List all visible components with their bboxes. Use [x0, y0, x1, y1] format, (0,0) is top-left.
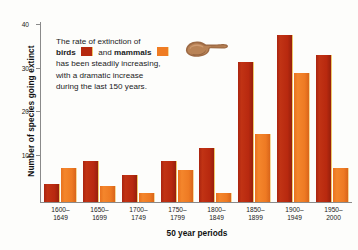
pointing-hand-icon: [185, 37, 229, 59]
bar-group: [313, 18, 352, 202]
y-tick-label-10: 10: [22, 151, 29, 158]
y-tick-label-40: 40: [22, 21, 29, 28]
annotation-line-5: during the last 150 years.: [56, 81, 206, 92]
annotation-conjunction: and: [98, 48, 112, 57]
bar-birds-1: [83, 161, 99, 202]
x-tick-line1: 1850–: [236, 206, 275, 214]
bar-mammals-4: [216, 193, 232, 202]
bar-group: [274, 18, 313, 202]
annotation-line-4: with a dramatic increase: [56, 70, 206, 81]
x-tick-label-3: 1750–1799: [158, 206, 197, 223]
x-tick-line2: 1699: [80, 214, 119, 222]
x-tick-line1: 1650–: [80, 206, 119, 214]
x-axis-tick-labels: 1600–16491650–16991700–17491750–17991800…: [41, 206, 353, 223]
bar-mammals-5: [255, 134, 271, 202]
x-tick-line2: 1949: [275, 214, 314, 222]
x-tick-line2: 1899: [236, 214, 275, 222]
legend-label-mammals: mammals: [114, 48, 151, 57]
x-axis-line: [40, 202, 352, 203]
x-tick-line2: 1649: [41, 214, 80, 222]
x-tick-label-2: 1700–1749: [119, 206, 158, 223]
legend-label-birds: birds: [56, 48, 76, 57]
bar-birds-6: [277, 35, 293, 202]
bar-birds-4: [199, 148, 215, 202]
x-tick-label-0: 1600–1649: [41, 206, 80, 223]
x-tick-line1: 1950–: [314, 206, 353, 214]
bar-birds-5: [238, 62, 254, 202]
bar-birds-3: [161, 161, 177, 202]
bar-birds-7: [316, 55, 332, 202]
extinction-bar-chart: Number of species going extinct 40 30 20…: [0, 0, 358, 250]
x-tick-line2: 1799: [158, 214, 197, 222]
bar-mammals-2: [139, 193, 155, 202]
annotation-line-1: The rate of extinction of: [56, 36, 206, 47]
x-tick-line2: 2000: [314, 214, 353, 222]
x-tick-line2: 1749: [119, 214, 158, 222]
annotation-line-2: birds and mammals: [56, 47, 206, 58]
bar-mammals-1: [100, 186, 116, 202]
x-tick-label-1: 1650–1699: [80, 206, 119, 223]
bar-birds-2: [122, 175, 138, 202]
legend-swatch-mammals: [157, 47, 169, 56]
x-tick-line1: 1750–: [158, 206, 197, 214]
x-tick-label-4: 1800–1849: [197, 206, 236, 223]
bar-birds-0: [44, 184, 60, 202]
x-tick-label-7: 1950–2000: [314, 206, 353, 223]
y-tick-label-20: 20: [22, 108, 29, 115]
bar-mammals-7: [333, 168, 349, 202]
bar-group: [235, 18, 274, 202]
x-tick-label-5: 1850–1899: [236, 206, 275, 223]
bar-mammals-3: [178, 170, 194, 202]
x-tick-line1: 1800–: [197, 206, 236, 214]
y-tick-label-30: 30: [22, 64, 29, 71]
x-tick-line1: 1700–: [119, 206, 158, 214]
x-tick-line2: 1849: [197, 214, 236, 222]
bar-mammals-0: [61, 168, 77, 202]
x-axis-title: 50 year periods: [41, 228, 353, 238]
x-tick-line1: 1600–: [41, 206, 80, 214]
chart-annotation: The rate of extinction of birds and mamm…: [56, 36, 206, 92]
x-tick-label-6: 1900–1949: [275, 206, 314, 223]
x-tick-line1: 1900–: [275, 206, 314, 214]
bar-mammals-6: [294, 73, 310, 202]
annotation-line-3: has been steadily increasing,: [56, 58, 206, 69]
legend-swatch-birds: [81, 47, 93, 56]
